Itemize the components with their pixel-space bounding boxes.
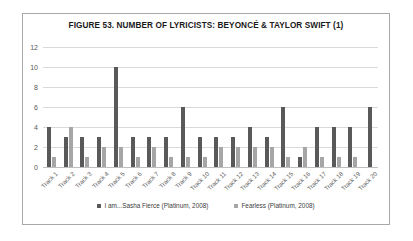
bar-group bbox=[278, 47, 295, 167]
bar bbox=[253, 147, 257, 167]
bar bbox=[281, 107, 285, 167]
chart-legend: I am...Sasha Fierce (Platinum, 2008)Fear… bbox=[23, 202, 389, 209]
bar bbox=[270, 147, 274, 167]
x-axis-tick-label: Track 7 bbox=[140, 170, 159, 189]
bar bbox=[231, 137, 235, 167]
figure-container: FIGURE 53. NUMBER OF LYRICISTS: BEYONCÉ … bbox=[22, 13, 390, 225]
x-axis-tick-label: Track 5 bbox=[107, 170, 126, 189]
bar-group bbox=[194, 47, 211, 167]
bar-group bbox=[127, 47, 144, 167]
bar bbox=[298, 157, 302, 167]
bar-group bbox=[43, 47, 60, 167]
bar bbox=[286, 157, 290, 167]
bar bbox=[64, 137, 68, 167]
bar bbox=[181, 107, 185, 167]
y-axis-tick-6: 6 bbox=[34, 104, 38, 111]
bar-group bbox=[261, 47, 278, 167]
bar bbox=[214, 137, 218, 167]
bar-group bbox=[211, 47, 228, 167]
bar-group bbox=[361, 47, 378, 167]
bar bbox=[85, 157, 89, 167]
plot-area: 024681012 bbox=[43, 47, 378, 167]
bar bbox=[348, 127, 352, 167]
x-axis-tick-label: Track 2 bbox=[57, 170, 76, 189]
bar bbox=[131, 137, 135, 167]
bar bbox=[219, 147, 223, 167]
chart-title: FIGURE 53. NUMBER OF LYRICISTS: BEYONCÉ … bbox=[23, 21, 389, 30]
bar-group bbox=[177, 47, 194, 167]
y-axis-tick-8: 8 bbox=[34, 84, 38, 91]
legend-swatch-icon bbox=[234, 204, 238, 208]
bar-group bbox=[345, 47, 362, 167]
bar-group bbox=[77, 47, 94, 167]
bar bbox=[303, 147, 307, 167]
bar bbox=[186, 157, 190, 167]
bar bbox=[52, 157, 56, 167]
x-axis-tick-label: Track 3 bbox=[73, 170, 92, 189]
x-axis-tick-label: Track 4 bbox=[90, 170, 109, 189]
legend-item: Fearless (Platinum, 2008) bbox=[234, 202, 314, 209]
x-axis-tick-label: Track 1 bbox=[40, 170, 59, 189]
bar-group bbox=[311, 47, 328, 167]
bar bbox=[236, 147, 240, 167]
bar bbox=[102, 147, 106, 167]
bar-group bbox=[160, 47, 177, 167]
bar bbox=[152, 147, 156, 167]
legend-swatch-icon bbox=[97, 204, 101, 208]
bar-group bbox=[294, 47, 311, 167]
bar-group bbox=[110, 47, 127, 167]
bar-group bbox=[328, 47, 345, 167]
bar-group bbox=[244, 47, 261, 167]
bar bbox=[368, 107, 372, 167]
x-axis-tick-label: Track 8 bbox=[157, 170, 176, 189]
bar bbox=[97, 137, 101, 167]
bar bbox=[265, 137, 269, 167]
bar bbox=[353, 157, 357, 167]
bar-group bbox=[93, 47, 110, 167]
bar-group bbox=[60, 47, 77, 167]
x-axis-tick-label: Track 6 bbox=[124, 170, 143, 189]
legend-label: Fearless (Platinum, 2008) bbox=[241, 202, 314, 209]
y-axis-tick-12: 12 bbox=[30, 44, 38, 51]
bar bbox=[337, 157, 341, 167]
bar bbox=[320, 157, 324, 167]
bar bbox=[47, 127, 51, 167]
y-axis-tick-2: 2 bbox=[34, 144, 38, 151]
bar bbox=[315, 127, 319, 167]
bar bbox=[248, 127, 252, 167]
bar bbox=[136, 157, 140, 167]
legend-item: I am...Sasha Fierce (Platinum, 2008) bbox=[97, 202, 208, 209]
bar bbox=[169, 157, 173, 167]
bar bbox=[119, 147, 123, 167]
bar-groups bbox=[43, 47, 378, 167]
bar bbox=[164, 137, 168, 167]
bar bbox=[198, 137, 202, 167]
y-axis-tick-4: 4 bbox=[34, 124, 38, 131]
bar-group bbox=[227, 47, 244, 167]
bar bbox=[114, 67, 118, 167]
legend-label: I am...Sasha Fierce (Platinum, 2008) bbox=[104, 202, 208, 209]
y-axis-tick-10: 10 bbox=[30, 64, 38, 71]
bar bbox=[80, 137, 84, 167]
bar-group bbox=[144, 47, 161, 167]
bar bbox=[147, 137, 151, 167]
bar bbox=[69, 127, 73, 167]
bar bbox=[332, 127, 336, 167]
bar bbox=[203, 157, 207, 167]
y-axis-tick-0: 0 bbox=[34, 164, 38, 171]
